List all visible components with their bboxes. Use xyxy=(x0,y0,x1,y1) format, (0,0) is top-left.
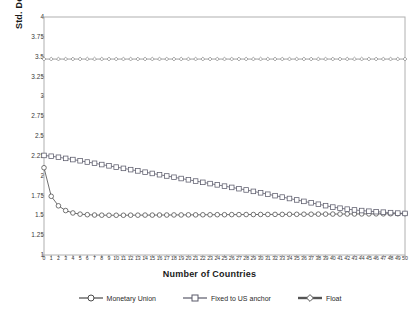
legend-item-fixed-to-us-anchor[interactable]: Fixed to US anchor xyxy=(182,293,271,303)
data-point xyxy=(323,203,328,208)
x-tick-label: 44 xyxy=(359,256,365,261)
data-point xyxy=(136,169,141,174)
data-point xyxy=(63,208,68,213)
data-point xyxy=(93,57,97,61)
data-point xyxy=(128,167,133,172)
data-point xyxy=(100,57,104,61)
x-tick-label: 28 xyxy=(243,256,249,261)
data-point xyxy=(42,57,46,61)
x-tick-label: 46 xyxy=(373,256,379,261)
data-point xyxy=(114,165,119,170)
data-point xyxy=(56,204,61,209)
legend-item-float[interactable]: Float xyxy=(297,293,342,303)
data-point xyxy=(179,176,184,181)
x-tick-label: 43 xyxy=(352,256,358,261)
data-point xyxy=(136,57,140,61)
data-point xyxy=(143,170,148,175)
data-point xyxy=(302,212,307,217)
data-point xyxy=(381,57,385,61)
data-point xyxy=(201,57,205,61)
data-point xyxy=(367,57,371,61)
data-point xyxy=(42,165,47,170)
data-point xyxy=(309,212,314,217)
data-point xyxy=(157,172,162,177)
data-point xyxy=(230,57,234,61)
legend-label: Monetary Union xyxy=(107,295,156,302)
legend-item-monetary-union[interactable]: Monetary Union xyxy=(78,293,156,303)
x-tick-label: 36 xyxy=(301,256,307,261)
x-tick-label: 37 xyxy=(308,256,314,261)
data-point xyxy=(266,192,271,197)
x-tick-label: 45 xyxy=(366,256,372,261)
data-point xyxy=(215,212,220,217)
data-point xyxy=(129,57,133,61)
x-axis-tick-labels: 0123456789101112131415161718192021222324… xyxy=(0,256,419,268)
x-tick-label: 32 xyxy=(272,256,278,261)
data-point xyxy=(85,57,89,61)
data-point xyxy=(244,57,248,61)
x-tick-label: 19 xyxy=(178,256,184,261)
data-point xyxy=(316,57,320,61)
data-point xyxy=(179,213,184,218)
data-point xyxy=(237,57,241,61)
x-tick-label: 1 xyxy=(50,256,53,261)
data-point xyxy=(107,213,112,218)
data-point xyxy=(302,57,306,61)
x-tick-label: 11 xyxy=(121,256,126,261)
data-point xyxy=(389,57,393,61)
data-point xyxy=(287,196,292,201)
data-point xyxy=(78,57,82,61)
data-point xyxy=(345,57,349,61)
x-tick-label: 9 xyxy=(108,256,111,261)
data-point xyxy=(179,57,183,61)
data-point xyxy=(229,212,234,217)
data-point xyxy=(352,208,357,213)
data-point xyxy=(331,57,335,61)
data-point xyxy=(338,206,343,211)
x-tick-label: 13 xyxy=(135,256,141,261)
data-point xyxy=(71,157,76,162)
plot-frame xyxy=(44,17,405,255)
data-point xyxy=(273,193,278,198)
data-point xyxy=(49,57,53,61)
data-point xyxy=(164,174,169,179)
data-point xyxy=(316,202,321,207)
data-point xyxy=(266,57,270,61)
data-point xyxy=(338,57,342,61)
data-point xyxy=(85,160,90,165)
data-point xyxy=(244,188,249,193)
circle-marker-icon xyxy=(78,293,104,303)
data-point xyxy=(353,57,357,61)
x-tick-label: 0 xyxy=(43,256,46,261)
x-tick-label: 27 xyxy=(236,256,242,261)
x-tick-label: 34 xyxy=(287,256,293,261)
data-point xyxy=(309,57,313,61)
data-point xyxy=(251,57,255,61)
x-tick-label: 48 xyxy=(388,256,394,261)
data-point xyxy=(193,179,198,184)
data-point xyxy=(403,57,407,61)
data-point xyxy=(338,212,343,217)
x-tick-label: 6 xyxy=(86,256,89,261)
x-tick-label: 14 xyxy=(142,256,148,261)
legend-label: Float xyxy=(326,295,342,302)
data-point xyxy=(201,212,206,217)
data-point xyxy=(165,57,169,61)
data-point xyxy=(121,213,126,218)
x-tick-label: 30 xyxy=(258,256,264,261)
x-tick-label: 7 xyxy=(93,256,96,261)
x-tick-label: 39 xyxy=(323,256,329,261)
data-point xyxy=(381,210,386,215)
data-point xyxy=(42,153,47,158)
x-tick-label: 2 xyxy=(57,256,60,261)
data-point xyxy=(121,166,126,171)
x-tick-label: 3 xyxy=(64,256,67,261)
data-point xyxy=(259,57,263,61)
data-point xyxy=(374,57,378,61)
data-point xyxy=(403,211,408,216)
data-point xyxy=(258,212,263,217)
data-point xyxy=(280,212,285,217)
x-tick-label: 47 xyxy=(380,256,386,261)
x-tick-label: 23 xyxy=(207,256,213,261)
data-point xyxy=(273,57,277,61)
